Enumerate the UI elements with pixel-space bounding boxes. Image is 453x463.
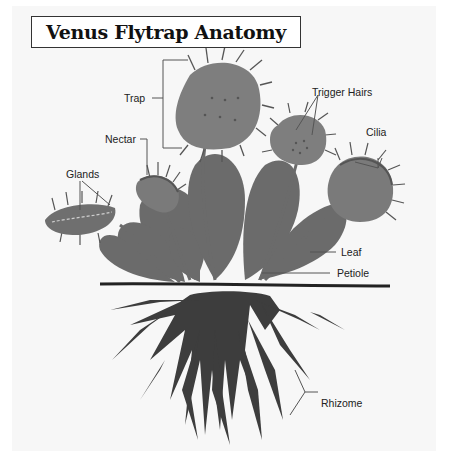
- label-leaf: Leaf: [341, 246, 361, 258]
- label-nectar: Nectar: [105, 133, 136, 145]
- diagram-title: Venus Flytrap Anatomy: [46, 21, 286, 43]
- trap-cilia: [328, 142, 405, 222]
- label-petiole: Petiole: [337, 267, 369, 279]
- label-trap: Trap: [124, 92, 145, 104]
- soil-line: [100, 284, 390, 286]
- label-glands: Glands: [66, 168, 99, 180]
- leaves: [99, 154, 346, 282]
- label-trigger-hairs: Trigger Hairs: [312, 86, 372, 98]
- title-box: Venus Flytrap Anatomy: [31, 16, 301, 48]
- label-cilia: Cilia: [366, 126, 386, 138]
- trap-main: [176, 46, 274, 162]
- venus-flytrap-illustration: [0, 0, 453, 463]
- rhizome-roots: [110, 291, 345, 445]
- label-rhizome: Rhizome: [321, 397, 362, 409]
- trap-trigger: [262, 102, 336, 165]
